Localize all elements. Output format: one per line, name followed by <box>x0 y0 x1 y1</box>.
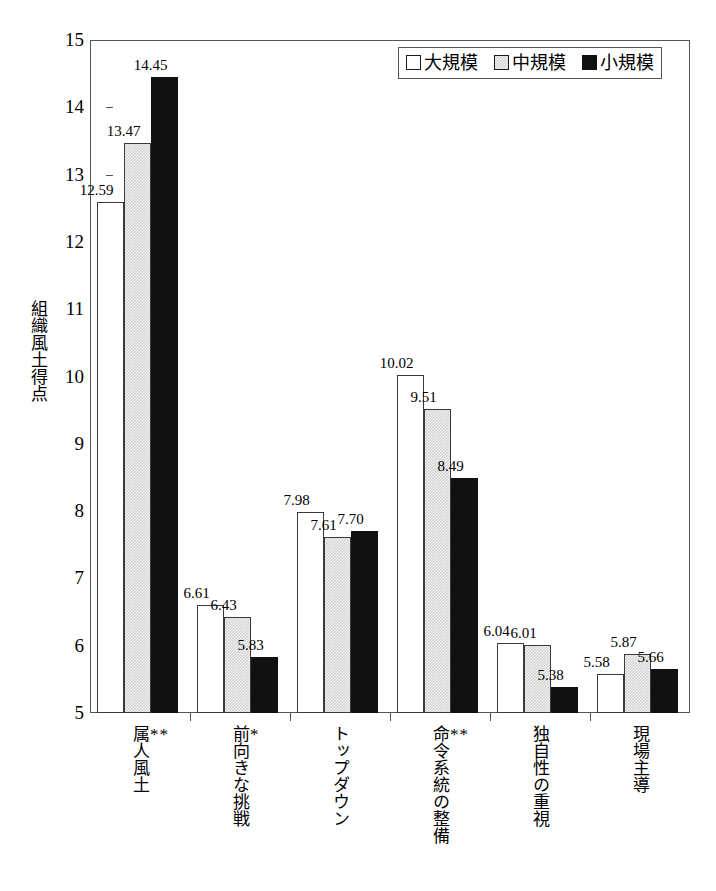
legend: 大規模 中規模 小規模 <box>398 47 662 79</box>
y-tick-label: 6 <box>50 636 84 655</box>
x-category-text: 命令系統の整備 <box>430 725 450 844</box>
legend-swatch-white-icon <box>406 55 421 70</box>
bar-value-label: 6.43 <box>202 598 246 613</box>
legend-item-medium[interactable]: 中規模 <box>494 54 566 72</box>
bar-1-小規模 <box>151 77 178 713</box>
bar-value-label: 13.47 <box>102 124 146 139</box>
legend-label-medium: 中規模 <box>512 54 566 72</box>
y-tick-label: 15 <box>50 30 84 49</box>
x-category-text: トップダウン <box>330 725 350 827</box>
bar-6-大規模 <box>597 674 624 713</box>
legend-swatch-gray-icon <box>494 55 509 70</box>
plot-area <box>90 40 690 713</box>
bar-1-中規模 <box>124 143 151 713</box>
bar-4-大規模 <box>397 375 424 713</box>
bar-2-小規模 <box>251 657 278 713</box>
x-tick-mark <box>390 713 391 721</box>
bar-3-小規模 <box>351 531 378 713</box>
x-tick-mark <box>190 713 191 721</box>
bar-2-中規模 <box>224 617 251 713</box>
x-category-text: 属人風土 <box>130 725 150 793</box>
y-tick-label: 13 <box>50 165 84 184</box>
x-category-label: 前向きな挑戦* <box>230 725 250 827</box>
bar-3-中規模 <box>324 537 351 713</box>
bar-1-大規模 <box>97 202 124 713</box>
y-tick-label: 10 <box>50 367 84 386</box>
x-category-text: 前向きな挑戦 <box>230 725 250 827</box>
significance-marker: * <box>250 725 260 745</box>
bar-6-小規模 <box>651 669 678 713</box>
bar-value-label: 9.51 <box>402 390 446 405</box>
bar-5-小規模 <box>551 687 578 713</box>
x-category-label: 属人風土** <box>130 725 150 793</box>
y-tick-label: 12 <box>50 232 84 251</box>
bar-3-大規模 <box>297 512 324 713</box>
x-tick-mark <box>490 713 491 721</box>
y-tick-label: 7 <box>50 568 84 587</box>
significance-marker: ** <box>450 725 469 745</box>
bar-value-label: 5.83 <box>229 638 273 653</box>
legend-label-large: 大規模 <box>424 54 478 72</box>
y-tick-label: 14 <box>50 97 84 116</box>
legend-swatch-black-icon <box>582 55 597 70</box>
y-axis-ticks: 56789101112131415 <box>22 0 84 891</box>
bar-value-label: 12.59 <box>75 183 119 198</box>
x-tick-mark <box>590 713 591 721</box>
bar-2-大規模 <box>197 605 224 713</box>
y-tick-label: 5 <box>50 703 84 722</box>
x-category-label: 現場主導 <box>630 725 650 793</box>
bar-value-label: 8.49 <box>429 459 473 474</box>
y-tick-label: 9 <box>50 434 84 453</box>
bar-value-label: 5.58 <box>575 655 619 670</box>
x-category-text: 独自性の重視 <box>530 725 550 827</box>
bar-value-label: 14.45 <box>129 58 173 73</box>
y-tick-label: 11 <box>50 299 84 318</box>
x-category-label: 命令系統の整備** <box>430 725 450 844</box>
x-category-text: 現場主導 <box>630 725 650 793</box>
x-category-label: トップダウン <box>330 725 350 827</box>
bar-4-小規模 <box>451 478 478 713</box>
bar-value-label: 5.66 <box>629 650 673 665</box>
bar-value-label: 6.01 <box>502 626 546 641</box>
x-category-label: 独自性の重視 <box>530 725 550 827</box>
bar-value-label: 7.98 <box>275 493 319 508</box>
bar-value-label: 7.70 <box>329 512 373 527</box>
bar-5-大規模 <box>497 643 524 713</box>
y-tick-mark <box>106 107 113 108</box>
bar-value-label: 10.02 <box>375 356 419 371</box>
y-tick-mark <box>106 175 113 176</box>
bar-value-label: 5.38 <box>529 668 573 683</box>
x-tick-mark <box>290 713 291 721</box>
legend-label-small: 小規模 <box>600 54 654 72</box>
legend-item-small[interactable]: 小規模 <box>582 54 654 72</box>
bar-chart: 組織風土得点 56789101112131415 12.5913.4714.45… <box>0 0 716 891</box>
y-tick-label: 8 <box>50 501 84 520</box>
bar-4-中規模 <box>424 409 451 713</box>
legend-item-large[interactable]: 大規模 <box>406 54 478 72</box>
significance-marker: ** <box>150 725 169 745</box>
